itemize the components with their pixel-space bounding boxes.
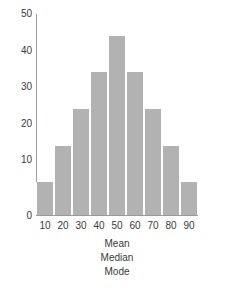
x-tick-label: 90 xyxy=(180,220,198,232)
x-tick-label: 10 xyxy=(36,220,54,232)
bar-series xyxy=(36,14,198,215)
y-axis-tick-labels: 50 40 30 20 10 0 xyxy=(6,0,32,295)
y-tick-label: 40 xyxy=(8,46,32,56)
bar-cell xyxy=(72,14,90,215)
bar-cell xyxy=(90,14,108,215)
annotation-mean: Mean xyxy=(36,237,198,251)
y-tick-label: 50 xyxy=(8,9,32,19)
y-tick-label: 0 xyxy=(8,211,32,221)
bar xyxy=(72,109,90,215)
center-annotations: Mean Median Mode xyxy=(36,237,198,279)
histogram-chart: 50 40 30 20 10 0 xyxy=(0,0,233,295)
bar xyxy=(36,182,54,215)
bar-cell xyxy=(162,14,180,215)
x-tick-label: 60 xyxy=(126,220,144,232)
y-tick-label: 10 xyxy=(8,155,32,165)
bar xyxy=(162,146,180,215)
y-tick-label: 20 xyxy=(8,119,32,129)
x-tick-label: 80 xyxy=(162,220,180,232)
bar xyxy=(126,72,144,215)
x-tick-label: 30 xyxy=(72,220,90,232)
x-tick-label: 20 xyxy=(54,220,72,232)
bar xyxy=(54,146,72,215)
annotation-median: Median xyxy=(36,251,198,265)
bar-cell xyxy=(180,14,198,215)
bar-cell xyxy=(54,14,72,215)
x-tick-label: 70 xyxy=(144,220,162,232)
bar xyxy=(108,36,126,215)
bar-cell xyxy=(126,14,144,215)
plot-area xyxy=(36,14,198,215)
bar-cell xyxy=(36,14,54,215)
bar xyxy=(90,72,108,215)
y-tick-label: 30 xyxy=(8,82,32,92)
annotation-mode: Mode xyxy=(36,265,198,279)
bar xyxy=(144,109,162,215)
bar xyxy=(180,182,198,215)
x-axis-line xyxy=(36,215,198,216)
x-axis-tick-labels: 10 20 30 40 50 60 70 80 90 xyxy=(36,220,198,232)
bar-cell xyxy=(144,14,162,215)
bar-cell xyxy=(108,14,126,215)
x-tick-label: 40 xyxy=(90,220,108,232)
x-tick-label: 50 xyxy=(108,220,126,232)
